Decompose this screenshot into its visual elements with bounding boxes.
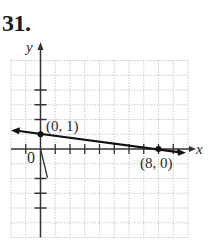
y-axis-arrow-icon: [38, 42, 44, 50]
line-arrow-left-icon: [11, 127, 20, 134]
coordinate-graph: y x 0 (0, 1) (8, 0): [0, 0, 214, 242]
y-axis-label: y: [24, 39, 33, 55]
point-label-0-1: (0, 1): [46, 118, 79, 135]
origin-label: 0: [27, 149, 35, 166]
point-marker: [156, 146, 162, 152]
y-tick: [41, 149, 48, 178]
point-marker: [38, 131, 44, 137]
x-axis-arrow-icon: [189, 146, 196, 152]
x-axis-label: x: [195, 141, 203, 157]
point-label-8-0: (8, 0): [140, 155, 173, 172]
